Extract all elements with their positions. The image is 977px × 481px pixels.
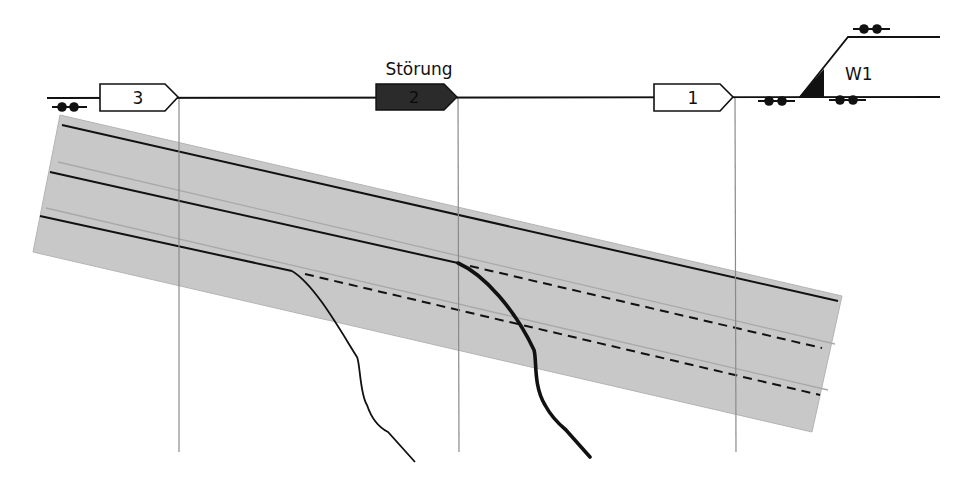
axle-counter-branch xyxy=(853,24,890,34)
main-track-line xyxy=(47,97,940,98)
signal-3-label: 3 xyxy=(133,88,144,108)
railway-signal-diagram: 3 Störung 2 1 W1 xyxy=(0,0,977,481)
main-track xyxy=(47,37,940,98)
signal-1-label: 1 xyxy=(688,88,699,108)
switch-w1-frog xyxy=(799,69,824,97)
signal-2-label: 2 xyxy=(409,88,419,107)
signal-2[interactable]: Störung 2 xyxy=(376,59,457,110)
axle-counter-left xyxy=(52,102,87,112)
signal-3[interactable]: 3 xyxy=(100,84,178,111)
switch-w1-label: W1 xyxy=(845,64,873,84)
signal-2-fault-annotation: Störung xyxy=(385,59,452,79)
route-band xyxy=(33,115,842,432)
guide-line-signal-2 xyxy=(458,97,459,452)
signal-1[interactable]: 1 xyxy=(654,84,733,111)
